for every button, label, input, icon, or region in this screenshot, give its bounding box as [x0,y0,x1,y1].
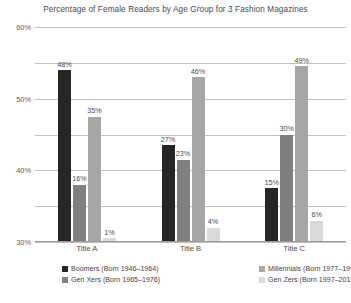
y-axis-tick-label: 60% [0,23,31,32]
bar-slot: 27% [162,27,175,242]
bar-value-label: 6% [311,211,321,218]
bar[interactable] [162,145,175,242]
bar[interactable] [177,160,190,242]
legend-label: Gen Xers (Born 1965–1976) [71,276,160,284]
legend-swatch-icon [62,277,68,283]
bar-slot: 6% [310,27,323,242]
bar-slot: 35% [88,27,101,242]
legend-item[interactable]: Gen Zers (Born 1997–2011) [197,274,332,285]
bar-slot: 48% [58,27,71,242]
bar-slot: 49% [295,27,308,242]
x-axis-category-label: Title C [242,244,346,253]
bar-value-label: 46% [191,68,205,75]
chart-container: Percentage of Female Readers by Age Grou… [0,0,351,303]
bar[interactable] [265,188,278,242]
bar-group: 15%30%49%6% [242,27,346,242]
bar-value-label: 1% [104,229,114,236]
bar-groups: 48%16%35%1%27%23%46%4%15%30%49%6% [35,27,346,242]
bar-group-bars: 48%16%35%1% [35,27,139,242]
legend-swatch-icon [259,277,265,283]
legend-label: Millennials (Born 1977–1996) [268,265,351,273]
bar-slot: 4% [207,27,220,242]
bar-slot: 16% [73,27,86,242]
bar-slot: 1% [103,27,116,242]
bar-value-label: 35% [87,107,101,114]
bar-group: 48%16%35%1% [35,27,139,242]
bar-group-bars: 15%30%49%6% [242,27,346,242]
y-axis-tick-label: 50% [0,94,31,103]
legend-item[interactable]: Gen Xers (Born 1965–1976) [62,274,197,285]
bar[interactable] [280,135,293,243]
bar[interactable] [192,77,205,242]
bar-value-label: 49% [294,57,308,64]
bar-slot: 30% [280,27,293,242]
x-axis-category-label: Title B [139,244,243,253]
x-axis-labels: Title ATitle BTitle C [35,244,346,253]
bar[interactable] [73,185,86,242]
x-axis-line [35,241,346,242]
bar[interactable] [207,228,220,242]
bar-value-label: 16% [72,175,86,182]
y-axis-tick-label: 30% [0,238,31,247]
legend-label: Boomers (Born 1946–1964) [71,265,159,273]
bar-value-label: 4% [208,218,218,225]
chart-legend: Boomers (Born 1946–1964)Millennials (Bor… [62,263,332,285]
bar-value-label: 23% [176,150,190,157]
legend-label: Gen Zers (Born 1997–2011) [268,276,351,284]
y-axis-tick-label: 40% [0,166,31,175]
bar-value-label: 15% [264,179,278,186]
legend-item[interactable]: Millennials (Born 1977–1996) [197,263,332,274]
bar-group-bars: 27%23%46%4% [139,27,243,242]
x-axis-category-label: Title A [35,244,139,253]
gridline: 0% [35,242,346,243]
bar-slot: 46% [192,27,205,242]
bar[interactable] [88,117,101,242]
bar[interactable] [310,221,323,243]
bar-value-label: 30% [279,125,293,132]
legend-swatch-icon [259,266,265,272]
chart-title: Percentage of Female Readers by Age Grou… [0,5,351,14]
bar[interactable] [58,70,71,242]
bar-group: 27%23%46%4% [139,27,243,242]
bar-value-label: 48% [57,61,71,68]
bar-value-label: 27% [161,136,175,143]
legend-item[interactable]: Boomers (Born 1946–1964) [62,263,197,274]
plot-area: 60%50%40%30%20%10%0% 48%16%35%1%27%23%46… [35,27,346,242]
bar-slot: 15% [265,27,278,242]
bar-slot: 23% [177,27,190,242]
legend-swatch-icon [62,266,68,272]
bar[interactable] [295,66,308,242]
